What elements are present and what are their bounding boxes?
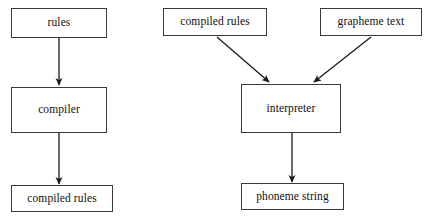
node-grapheme-text-label: grapheme text [338,16,405,28]
node-interpreter[interactable]: interpreter [241,84,341,133]
node-compiler[interactable]: compiler [11,87,107,133]
node-compiled-rules-output[interactable]: compiled rules [11,185,113,212]
node-compiler-label: compiler [38,104,80,116]
node-phoneme-string[interactable]: phoneme string [241,183,344,210]
node-compiled-rules-input[interactable]: compiled rules [163,8,267,36]
node-compiled-rules-output-label: compiled rules [27,193,96,205]
node-rules-label: rules [48,17,71,29]
arrow-compiled-rules-to-interpreter [217,37,269,82]
node-grapheme-text[interactable]: grapheme text [320,8,422,36]
diagram-canvas: rules compiler compiled rules compiled r… [0,0,427,218]
node-rules[interactable]: rules [11,8,107,38]
arrow-grapheme-text-to-interpreter [314,37,371,82]
node-phoneme-string-label: phoneme string [256,191,329,203]
node-interpreter-label: interpreter [267,103,316,115]
node-compiled-rules-input-label: compiled rules [180,16,249,28]
